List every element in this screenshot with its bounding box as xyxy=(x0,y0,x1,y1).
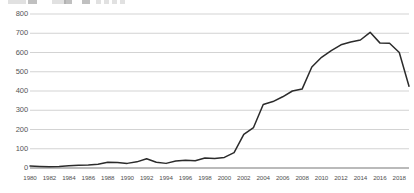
toolbar-chip-0[interactable] xyxy=(8,0,26,4)
gridlines-group xyxy=(30,14,409,149)
y-tick-label-600: 600 xyxy=(2,49,28,57)
y-tick-label-400: 400 xyxy=(2,87,28,95)
y-tick-label-700: 700 xyxy=(2,29,28,37)
chart-svg xyxy=(0,7,414,193)
chart-container: 0100200300400500600700800 19801982198419… xyxy=(0,0,414,193)
truncated-toolbar-strip xyxy=(0,0,414,7)
toolbar-chip-6[interactable] xyxy=(104,0,109,4)
toolbar-chip-3[interactable] xyxy=(64,0,72,4)
y-tick-label-500: 500 xyxy=(2,68,28,76)
y-axis-tick-labels: 0100200300400500600700800 xyxy=(0,7,28,193)
line-chart-plot: 0100200300400500600700800 19801982198419… xyxy=(0,7,414,193)
y-tick-label-100: 100 xyxy=(2,145,28,153)
toolbar-chip-8[interactable] xyxy=(120,0,125,4)
toolbar-chip-1[interactable] xyxy=(28,0,37,4)
toolbar-chip-4[interactable] xyxy=(82,0,90,4)
toolbar-chip-7[interactable] xyxy=(112,0,117,4)
y-tick-label-800: 800 xyxy=(2,10,28,18)
y-tick-label-0: 0 xyxy=(2,164,28,172)
toolbar-chip-5[interactable] xyxy=(96,0,101,4)
y-tick-label-300: 300 xyxy=(2,106,28,114)
y-tick-label-200: 200 xyxy=(2,126,28,134)
